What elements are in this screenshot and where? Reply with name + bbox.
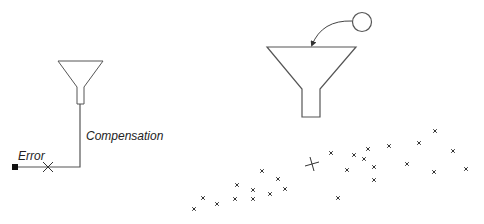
ball-circle-icon — [353, 13, 372, 32]
small-funnel-icon — [58, 61, 103, 104]
compensation-label: Compensation — [86, 130, 163, 142]
drop-arrow-icon — [312, 21, 352, 45]
target-cross-icon — [305, 157, 319, 171]
scatter-points — [192, 129, 468, 211]
error-source-square-icon — [12, 164, 18, 170]
error-label: Error — [18, 150, 45, 162]
large-funnel-icon — [267, 47, 356, 117]
diagram-canvas — [0, 0, 484, 224]
